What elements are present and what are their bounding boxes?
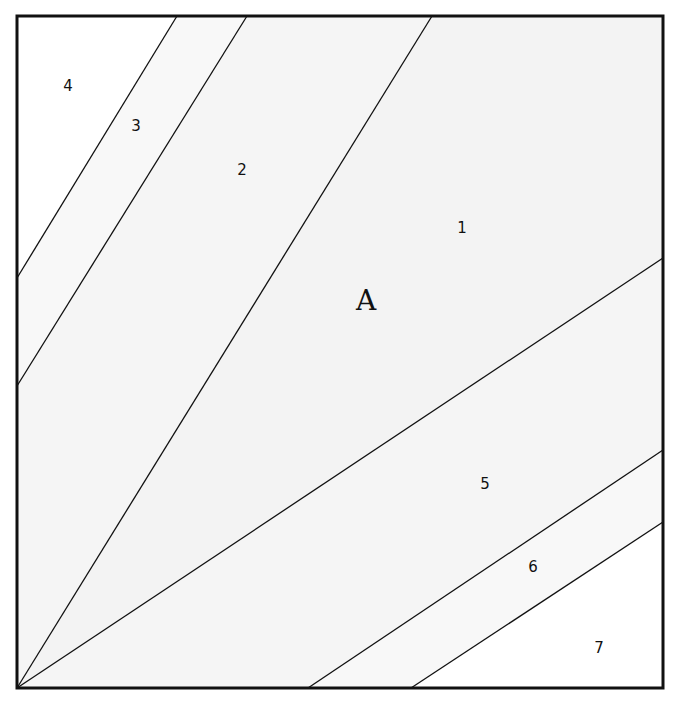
block-label: A [355, 284, 377, 317]
region-label-1: 1 [457, 219, 467, 237]
region-label-2: 2 [237, 161, 247, 179]
region-label-5: 5 [480, 475, 490, 493]
region-label-3: 3 [131, 117, 141, 135]
region-label-7: 7 [594, 639, 604, 657]
region-label-6: 6 [528, 558, 538, 576]
piecing-diagram: 4 3 2 1 A 5 6 7 [0, 0, 674, 704]
region-label-4: 4 [63, 77, 73, 95]
